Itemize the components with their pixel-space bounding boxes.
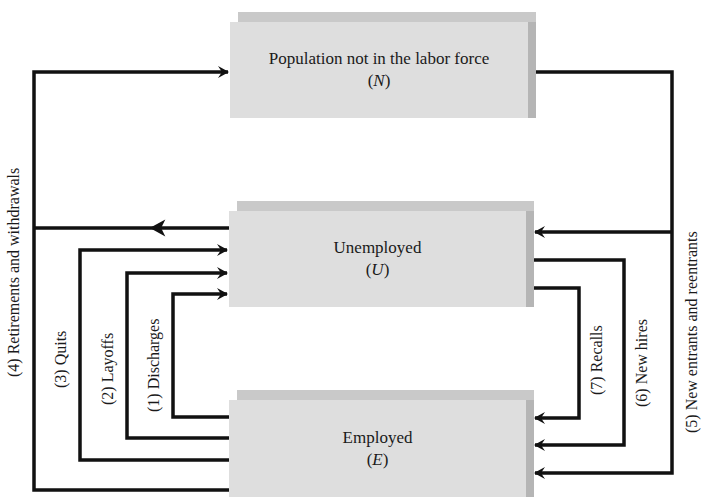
- node-label: Employed: [343, 427, 413, 449]
- box-bevel-side: [528, 22, 536, 118]
- node-employed: Employed (E): [229, 390, 534, 497]
- box-face: Employed (E): [229, 400, 526, 497]
- node-symbol: (U): [366, 259, 390, 281]
- flow-1-label: (1) Discharges: [145, 319, 163, 412]
- flow-5-new-entrants-line: [535, 72, 672, 473]
- flow-4-retirements-line: [34, 72, 229, 490]
- box-bevel-top: [238, 12, 536, 22]
- flow-2-layoffs-line: [127, 273, 229, 438]
- flow-3-label: (3) Quits: [52, 331, 70, 388]
- node-unemployed: Unemployed (U): [229, 201, 534, 307]
- box-bevel-top: [237, 201, 534, 211]
- box-bevel-top: [237, 390, 534, 400]
- node-not-in-labor-force: Population not in the labor force (N): [230, 12, 536, 118]
- node-label: Population not in the labor force: [269, 48, 489, 70]
- flow-2-label: (2) Layoffs: [99, 333, 117, 405]
- labor-flow-diagram: Population not in the labor force (N) Un…: [0, 0, 709, 502]
- flow-1-discharges-line: [173, 294, 229, 417]
- box-face: Population not in the labor force (N): [230, 22, 528, 118]
- flow-7-recalls-line: [534, 288, 579, 418]
- box-bevel-side: [526, 400, 534, 497]
- box-face: Unemployed (U): [229, 211, 526, 307]
- flow-4-label: (4) Retirements and withdrawals: [5, 168, 23, 377]
- box-bevel-side: [526, 211, 534, 307]
- flow-7-label: (7) Recalls: [588, 325, 606, 395]
- flow-6-label: (6) New hires: [633, 319, 651, 407]
- node-symbol: (N): [368, 70, 391, 92]
- flow-5-label: (5) New entrants and reentrants: [683, 231, 701, 433]
- node-symbol: (E): [367, 449, 389, 471]
- node-label: Unemployed: [334, 237, 422, 259]
